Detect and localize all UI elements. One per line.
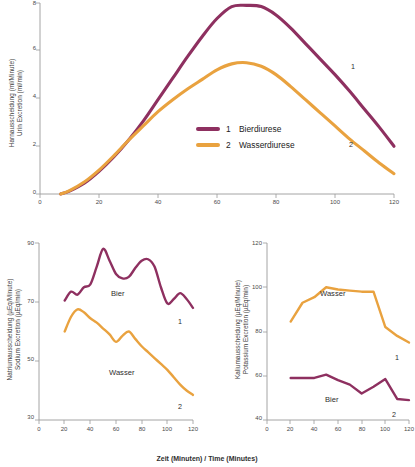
urine-curve-bierdiurese bbox=[61, 5, 394, 194]
urine-xtick-120: 120 bbox=[388, 199, 400, 205]
legend-number-1: 1 bbox=[226, 124, 233, 134]
urine-plot-area bbox=[0, 0, 414, 210]
sodium-xtick-120: 120 bbox=[187, 426, 199, 432]
urine-xtick-60: 60 bbox=[211, 199, 223, 205]
legend-number-2: 2 bbox=[226, 140, 233, 150]
chart-urine-excretion: Harnausscheidung (ml/Minute) Urin Excret… bbox=[0, 0, 414, 210]
sodium-xtick-80: 80 bbox=[136, 426, 148, 432]
sodium-y-axis-title-line1: Natriumausscheidung (µEq/Minute) bbox=[6, 279, 13, 381]
urine-ytick-4: 4 bbox=[26, 93, 36, 99]
legend-label-wasserdiurese: Wasserdiurese bbox=[239, 140, 295, 150]
potassium-series-label-bier: Bier bbox=[325, 395, 339, 404]
urine-xtick-20: 20 bbox=[93, 199, 105, 205]
potassium-series-group bbox=[291, 287, 409, 400]
sodium-xtick-60: 60 bbox=[110, 426, 122, 432]
potassium-xtick-100: 100 bbox=[379, 426, 391, 432]
sodium-series-label-wasser: Wasser bbox=[109, 368, 134, 377]
sodium-ytick-90: 90 bbox=[22, 240, 34, 246]
sodium-ytick-30: 30 bbox=[22, 414, 34, 420]
chart-sodium-excretion: Natriumausscheidung (µEq/Minute) Sodium … bbox=[0, 232, 212, 457]
urine-legend: 1 Bierdiurese 2 Wasserdiurese bbox=[196, 124, 295, 150]
urine-y-axis-title: Harnausscheidung (ml/Minute) Urin Excret… bbox=[8, 8, 24, 198]
legend-label-bierdiurese: Bierdiurese bbox=[239, 124, 281, 134]
sodium-xtick-20: 20 bbox=[58, 426, 70, 432]
sodium-curve-number-2: 2 bbox=[178, 402, 182, 411]
urine-ytick-6: 6 bbox=[26, 45, 36, 51]
urine-axes bbox=[36, 3, 394, 198]
sodium-ytick-50: 50 bbox=[22, 356, 34, 362]
urine-xtick-40: 40 bbox=[152, 199, 164, 205]
potassium-ytick-40: 40 bbox=[248, 415, 262, 421]
urine-curve-number-2: 2 bbox=[349, 140, 353, 149]
potassium-curve-bier bbox=[291, 375, 409, 400]
potassium-ytick-100: 100 bbox=[248, 284, 262, 290]
potassium-xtick-0: 0 bbox=[261, 426, 273, 432]
sodium-xtick-40: 40 bbox=[84, 426, 96, 432]
legend-swatch-bierdiurese bbox=[196, 127, 220, 131]
sodium-curve-bier bbox=[65, 249, 193, 308]
potassium-xtick-120: 120 bbox=[403, 426, 415, 432]
urine-series-group bbox=[61, 5, 394, 194]
urine-ytick-2: 2 bbox=[26, 141, 36, 147]
potassium-curve-number-2: 2 bbox=[392, 410, 396, 419]
potassium-curve-number-1: 1 bbox=[395, 353, 399, 362]
figure-x-axis-title: Zeit (Minuten) / Time (Minutes) bbox=[0, 455, 414, 462]
sodium-y-axis-title-line2: Sodium Excretion (µEq/min) bbox=[14, 289, 21, 370]
potassium-xtick-60: 60 bbox=[332, 426, 344, 432]
urine-xtick-0: 0 bbox=[34, 199, 46, 205]
potassium-xtick-20: 20 bbox=[284, 426, 296, 432]
legend-swatch-wasserdiurese bbox=[196, 143, 220, 147]
urine-curve-number-1: 1 bbox=[351, 62, 355, 71]
chart-potassium-excretion: Kaliumausscheidung (µEq/Minute) Potassiu… bbox=[212, 232, 414, 457]
urine-ytick-0: 0 bbox=[26, 189, 36, 195]
potassium-ytick-120: 120 bbox=[248, 240, 262, 246]
potassium-ytick-60: 60 bbox=[248, 372, 262, 378]
sodium-series-label-bier: Bier bbox=[111, 289, 125, 298]
urine-xtick-80: 80 bbox=[270, 199, 282, 205]
urine-xtick-100: 100 bbox=[329, 199, 341, 205]
sodium-curve-number-1: 1 bbox=[178, 317, 182, 326]
sodium-xtick-100: 100 bbox=[161, 426, 173, 432]
sodium-y-axis-title: Natriumausscheidung (µEq/Minute) Sodium … bbox=[6, 237, 22, 422]
potassium-ytick-80: 80 bbox=[248, 328, 262, 334]
urine-y-axis-title-line1: Harnausscheidung (ml/Minute) bbox=[8, 59, 15, 147]
potassium-curve-wasser bbox=[291, 287, 409, 342]
sodium-plot-area bbox=[0, 232, 212, 457]
legend-item-bierdiurese: 1 Bierdiurese bbox=[196, 124, 295, 134]
legend-item-wasserdiurese: 2 Wasserdiurese bbox=[196, 140, 295, 150]
potassium-xtick-40: 40 bbox=[308, 426, 320, 432]
sodium-xtick-0: 0 bbox=[33, 426, 45, 432]
urine-y-axis-title-line2: Urin Excretion (ml/min) bbox=[16, 70, 23, 136]
potassium-series-label-wasser: Wasser bbox=[320, 289, 345, 298]
sodium-ytick-70: 70 bbox=[22, 298, 34, 304]
urine-ytick-8: 8 bbox=[26, 0, 36, 6]
potassium-xtick-80: 80 bbox=[356, 426, 368, 432]
sodium-curve-wasser bbox=[65, 309, 193, 395]
potassium-y-axis-title-line1: Kaliumausscheidung (µEq/Minute) bbox=[234, 280, 241, 379]
